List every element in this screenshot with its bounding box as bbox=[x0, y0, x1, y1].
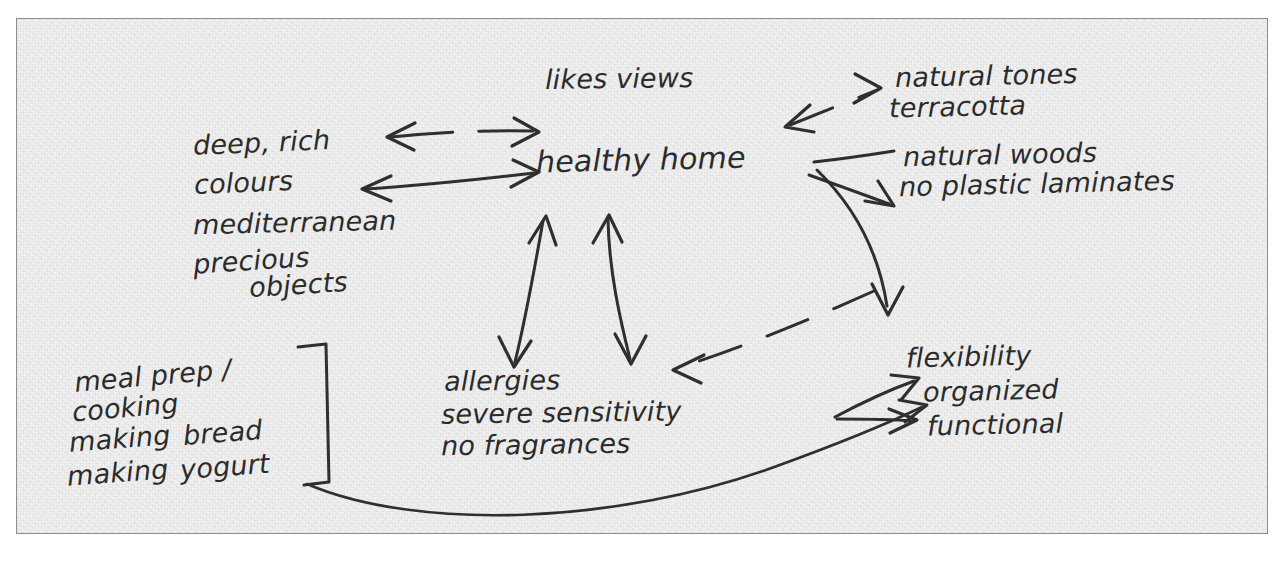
node-colours-line-2: colours bbox=[193, 167, 293, 198]
node-kitchen-line-4a: making bbox=[66, 455, 169, 489]
node-colours-line-1: deep, rich bbox=[192, 126, 330, 159]
node-kitchen-line-4b: yogurt bbox=[179, 450, 270, 483]
connector-kitchen-bracket bbox=[298, 344, 329, 485]
node-healthy-home: healthy home bbox=[536, 143, 746, 178]
node-allergies-line-2: severe sensitivity bbox=[441, 397, 682, 427]
paper-sheet: healthy home (upper) --> healthy home (l… bbox=[16, 18, 1268, 534]
node-materials-line-1: natural tones bbox=[895, 60, 1078, 91]
connector-center-to-allergies-right bbox=[593, 215, 646, 364]
node-allergies-line-3: no fragrances bbox=[441, 430, 631, 460]
node-likes-views: likes views bbox=[545, 64, 694, 93]
connector-center-to-no-laminates bbox=[809, 175, 894, 206]
node-colours-line-5: objects bbox=[248, 268, 348, 301]
node-organization-line-1: flexibility bbox=[906, 342, 1032, 372]
connector-colours-to-center-dashed bbox=[387, 118, 539, 150]
connector-center-to-allergies-left bbox=[499, 216, 556, 367]
node-materials-line-4: no plastic laminates bbox=[899, 167, 1175, 200]
connector-arrow-to-functional bbox=[837, 409, 917, 433]
node-materials-line-3: natural woods bbox=[903, 139, 1098, 170]
node-organization-line-2: organized bbox=[923, 375, 1059, 405]
node-colours-line-3: mediterranean bbox=[193, 207, 397, 239]
node-materials-line-2: terracotta bbox=[889, 91, 1027, 121]
connector-flexibility-to-allergies bbox=[673, 291, 874, 383]
connector-arrow-to-organized bbox=[835, 375, 919, 417]
node-kitchen-line-3a: making bbox=[68, 421, 171, 455]
node-allergies-line-1: allergies bbox=[444, 366, 561, 395]
node-organization-line-3: functional bbox=[927, 409, 1064, 439]
sketch-page: healthy home (upper) --> healthy home (l… bbox=[0, 0, 1283, 566]
connector-colours-to-center-solid bbox=[362, 160, 539, 201]
connector-center-to-natural-tones bbox=[785, 74, 881, 132]
connector-center-to-natural-woods bbox=[814, 151, 894, 162]
ink-layer: healthy home (upper) --> healthy home (l… bbox=[17, 19, 1267, 533]
node-kitchen-line-3b: bread bbox=[182, 416, 263, 449]
